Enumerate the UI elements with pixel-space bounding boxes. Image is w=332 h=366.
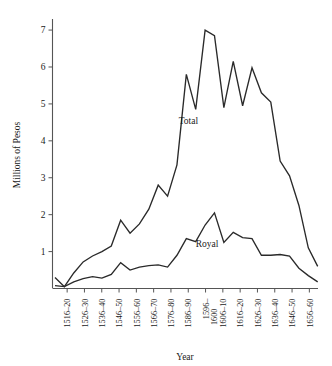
x-tick-label-text: 1656–60 <box>306 299 315 328</box>
y-tick-group: 1234567 <box>41 25 53 257</box>
x-tick-label-text: 1586–90 <box>184 299 193 328</box>
x-tick-label: 1566–70 <box>150 299 159 328</box>
x-tick-label-text-wrap: 1600 <box>210 309 219 326</box>
y-axis-title-group: Millions of Pesos <box>12 121 22 188</box>
y-tick-label: 7 <box>41 25 46 35</box>
x-tick-label-text: 1616–20 <box>236 299 245 328</box>
x-tick-group <box>67 289 309 293</box>
x-tick-label-group: 1516–201526–301536–401546–501556–601566–… <box>63 298 314 328</box>
x-axis-title: Year <box>176 352 194 362</box>
x-tick-label: 1546–50 <box>115 299 124 328</box>
y-tick-label: 2 <box>41 210 46 220</box>
series-line-total <box>55 30 318 287</box>
series-annotation-total: Total <box>179 116 199 126</box>
x-tick-label: 1526–30 <box>81 299 90 328</box>
x-tick-label: 1646–50 <box>288 299 297 328</box>
x-tick-label: 1586–90 <box>184 299 193 328</box>
x-tick-label: 1626–30 <box>254 299 263 328</box>
y-axis-title: Millions of Pesos <box>12 121 22 188</box>
x-tick-label: 1606–10 <box>219 299 228 328</box>
y-tick-label: 3 <box>41 173 46 183</box>
y-tick-label: 5 <box>41 99 46 109</box>
x-tick-label: 1656–60 <box>306 299 315 328</box>
series-annotation-royal: Royal <box>196 239 219 249</box>
x-tick-label: 1536–40 <box>98 299 107 328</box>
y-tick-label: 6 <box>41 62 46 72</box>
x-tick-label-text: 1646–50 <box>288 299 297 328</box>
x-tick-label-text: 1546–50 <box>115 299 124 328</box>
series-group <box>55 30 318 287</box>
y-tick-label: 4 <box>41 136 46 146</box>
x-tick-label-text: 1566–70 <box>150 299 159 328</box>
series-line-royal <box>55 213 318 287</box>
x-tick-label-text: 1516–20 <box>63 299 72 328</box>
x-tick-label-text: 1526–30 <box>81 299 90 328</box>
x-tick-label: 1516–20 <box>63 299 72 328</box>
x-tick-label-text: 1636–40 <box>271 299 280 328</box>
x-tick-label-text: 1536–40 <box>98 299 107 328</box>
x-tick-label-text: 1606–10 <box>219 299 228 328</box>
x-axis <box>53 289 319 293</box>
x-tick-label: 1616–20 <box>236 299 245 328</box>
x-tick-label: 1596–1600 <box>202 298 219 325</box>
x-tick-label-text: 1626–30 <box>254 299 263 328</box>
annotation-group: TotalRoyal <box>179 116 219 249</box>
x-tick-label: 1576–80 <box>167 299 176 328</box>
x-tick-label: 1556–60 <box>133 299 142 328</box>
chart-figure: Millions of Pesos 1234567 TotalRoyal 151… <box>0 0 332 366</box>
line-chart-svg: Millions of Pesos 1234567 TotalRoyal 151… <box>0 0 332 366</box>
y-tick-label: 1 <box>41 247 46 257</box>
y-axis: 1234567 <box>41 19 53 288</box>
x-tick-label: 1636–40 <box>271 299 280 328</box>
x-tick-label-text: 1576–80 <box>167 299 176 328</box>
x-tick-label-text: 1556–60 <box>133 299 142 328</box>
